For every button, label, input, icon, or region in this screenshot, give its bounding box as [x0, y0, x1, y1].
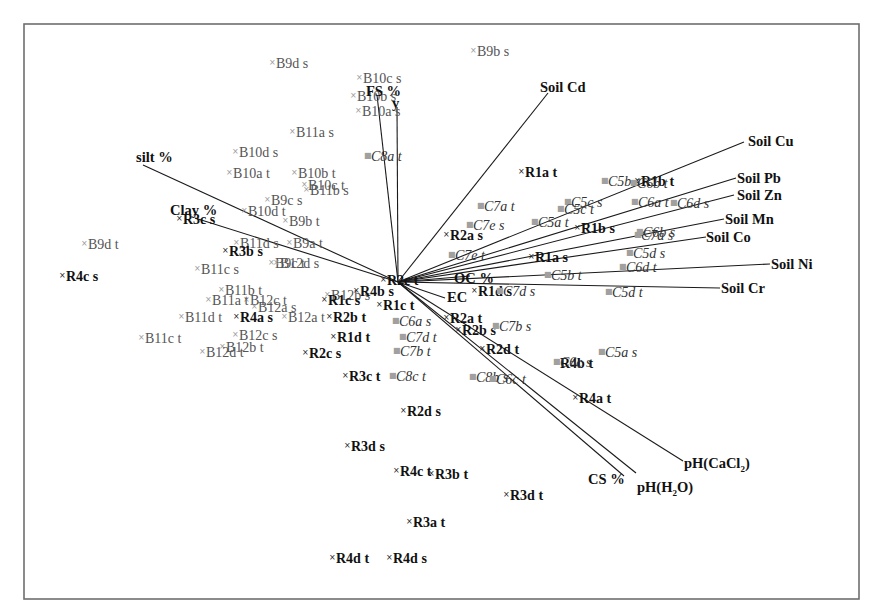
point-marker: ×: [572, 393, 579, 402]
point-marker: ×: [443, 313, 450, 322]
point-marker: ×: [232, 330, 239, 339]
point-label: R4a s: [240, 310, 274, 325]
point-label: R4c s: [66, 269, 99, 284]
point-label: B11c t: [145, 331, 182, 346]
point-label: B9d s: [276, 56, 308, 71]
point-marker: ×: [344, 441, 351, 450]
point-marker: ×: [400, 406, 407, 415]
point-marker: ×: [470, 46, 477, 55]
point-label: B11b s: [310, 183, 349, 198]
point-label: B9b s: [477, 44, 509, 59]
point-label: B10d t: [248, 204, 286, 219]
point-label: C7d t: [406, 330, 438, 345]
point-label: R3a t: [413, 515, 446, 530]
vector-line: [377, 95, 398, 282]
vector-label: Soil Cd: [540, 79, 586, 95]
plot-frame: [24, 24, 859, 599]
vector-label: Soil Cr: [721, 280, 765, 296]
point-label: R3b t: [435, 467, 468, 482]
vector-label: silt %: [136, 149, 173, 165]
point-label: R2b t: [333, 310, 366, 325]
point-marker: ×: [386, 553, 393, 562]
vector-label: CS %: [588, 471, 625, 487]
point-label: R1c t: [383, 298, 415, 313]
point-marker: ×: [138, 333, 145, 342]
point-marker: ×: [226, 168, 233, 177]
point-label: B11a t: [212, 293, 249, 308]
point-label: C6d s: [677, 196, 710, 211]
point-marker: ×: [241, 206, 248, 215]
point-marker: ×: [81, 239, 88, 248]
point-marker: ×: [269, 58, 276, 67]
point-label: C6c s: [560, 355, 592, 370]
point-label: R3b s: [229, 244, 263, 259]
point-label: R3d t: [510, 488, 543, 503]
vector-label: pH(H2O): [637, 479, 693, 498]
vector-label: Soil Pb: [737, 170, 781, 186]
point-label: R4d t: [336, 551, 369, 566]
point-marker: ×: [355, 106, 362, 115]
point-label: B11a s: [296, 125, 334, 140]
point-label: C7e s: [473, 218, 505, 233]
point-label: C5d t: [612, 285, 644, 300]
point-marker: ×: [406, 517, 413, 526]
point-marker: ×: [326, 312, 333, 321]
point-label: R4b s: [360, 284, 394, 299]
point-label: C6d t: [626, 260, 658, 275]
point-label: C7b s: [499, 319, 532, 334]
point-marker: ×: [574, 223, 581, 232]
point-marker: ×: [264, 195, 271, 204]
point-label: B12d t: [206, 345, 244, 360]
point-label: R3c t: [349, 369, 381, 384]
point-marker: ×: [289, 127, 296, 136]
vector-label: pH(CaCl2): [684, 455, 750, 474]
vector-label: y: [392, 95, 400, 111]
point-marker: ×: [291, 168, 298, 177]
point-label: C6b s: [643, 225, 676, 240]
point-marker: ×: [233, 312, 240, 321]
point-label: C8a t: [371, 149, 403, 164]
point-marker: ×: [282, 216, 289, 225]
point-marker: ×: [342, 371, 349, 380]
point-label: C5a s: [605, 345, 638, 360]
point-label: R1a t: [525, 165, 558, 180]
point-label: C6a t: [638, 195, 670, 210]
point-label: C7d s: [503, 284, 536, 299]
point-label: R1b s: [581, 221, 615, 236]
point-marker: ×: [194, 264, 201, 273]
point-marker: ×: [443, 230, 450, 239]
point-marker: ×: [286, 238, 293, 247]
point-marker: ×: [356, 73, 363, 82]
point-label: C5a t: [538, 215, 570, 230]
point-marker: ×: [281, 312, 288, 321]
point-marker: ×: [303, 185, 310, 194]
point-label: B9a t: [293, 236, 323, 251]
vector-label: OC %: [454, 270, 494, 286]
point-label: R3d s: [351, 439, 385, 454]
point-marker: ×: [503, 490, 510, 499]
point-marker: ×: [376, 300, 383, 309]
point-marker: ×: [329, 553, 336, 562]
point-label: C7b t: [400, 344, 432, 359]
point-marker: ×: [455, 325, 462, 334]
vector-label: Soil Ni: [771, 256, 813, 272]
vector-label: Soil Mn: [725, 211, 774, 227]
point-marker: ×: [528, 252, 535, 261]
point-marker: ×: [302, 348, 309, 357]
point-label: B10a t: [233, 166, 270, 181]
point-label: R4d s: [393, 551, 427, 566]
point-label: B11d t: [185, 310, 222, 325]
point-label: B11c s: [201, 262, 239, 277]
point-label: C6c t: [496, 372, 527, 387]
point-marker: ×: [222, 246, 229, 255]
point-marker: ×: [178, 312, 185, 321]
point-marker: ×: [471, 286, 478, 295]
point-marker: ×: [232, 147, 239, 156]
point-marker: ×: [273, 258, 280, 267]
point-label: R2c s: [309, 346, 342, 361]
point-marker: ×: [321, 295, 328, 304]
point-marker: ×: [350, 91, 357, 100]
vector-line: [397, 107, 398, 282]
point-marker: ×: [205, 295, 212, 304]
point-label: R4a t: [579, 391, 612, 406]
